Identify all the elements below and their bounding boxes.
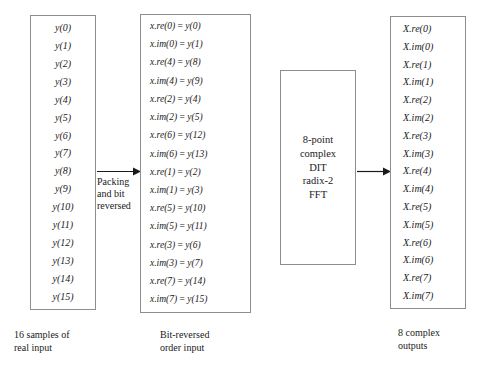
- packing-arrow-label: Packing and bit reversed: [97, 176, 143, 213]
- signal-entry: y(1): [55, 41, 71, 51]
- signal-entry: y(0): [55, 23, 71, 33]
- signal-entry: X.re(1): [391, 60, 431, 70]
- outputs-caption: 8 complex outputs: [398, 327, 488, 352]
- signal-entry: y(6): [55, 131, 71, 141]
- signal-entry: X.re(0): [391, 24, 431, 34]
- input-caption: 16 samples of real input: [14, 329, 124, 354]
- signal-entry: x.re(3) = y(6): [141, 241, 201, 251]
- signal-entry: x.im(4) = y(9): [141, 77, 203, 87]
- signal-entry: x.im(0) = y(1): [141, 40, 203, 50]
- signal-entry: x.im(1) = y(3): [141, 186, 203, 196]
- signal-entry: x.im(2) = y(5): [141, 113, 203, 123]
- signal-entry: X.im(7): [391, 291, 433, 301]
- signal-entry: x.re(7) = y(14): [141, 277, 205, 287]
- signal-entry: y(2): [55, 59, 71, 69]
- bit-reversed-input-box: x.re(0) = y(0)x.im(0) = y(1)x.re(4) = y(…: [140, 14, 251, 313]
- complex-outputs-box: X.re(0)X.im(0)X.re(1)X.im(1)X.re(2)X.im(…: [390, 16, 466, 309]
- signal-entry: X.im(6): [391, 255, 433, 265]
- signal-entry: y(8): [55, 166, 71, 176]
- output-arrow: [357, 167, 391, 176]
- signal-entry: y(5): [55, 113, 71, 123]
- signal-entry: x.im(6) = y(13): [141, 150, 207, 160]
- signal-entry: y(3): [55, 77, 71, 87]
- signal-entry: x.re(2) = y(4): [141, 95, 201, 105]
- signal-entry: y(9): [55, 184, 71, 194]
- signal-entry: y(14): [52, 274, 73, 284]
- signal-entry: y(11): [53, 220, 73, 230]
- signal-entry: x.im(7) = y(15): [141, 295, 207, 305]
- fft-block-line: FFT: [309, 188, 327, 202]
- signal-entry: y(12): [52, 238, 73, 248]
- signal-entry: X.im(5): [391, 220, 433, 230]
- input-samples-box: y(0)y(1)y(2)y(3)y(4)y(5)y(6)y(7)y(8)y(9)…: [30, 15, 96, 310]
- signal-entry: x.re(4) = y(8): [141, 58, 201, 68]
- packing-arrow: [97, 167, 141, 176]
- signal-entry: x.re(1) = y(2): [141, 168, 201, 178]
- bit-reversed-caption: Bit-reversed order input: [160, 329, 270, 354]
- signal-entry: X.re(5): [391, 202, 431, 212]
- fft-block-line: radix-2: [303, 174, 333, 188]
- signal-entry: y(4): [55, 95, 71, 105]
- signal-entry: X.im(0): [391, 42, 433, 52]
- signal-entry: X.im(4): [391, 184, 433, 194]
- signal-entry: x.im(5) = y(11): [141, 222, 207, 232]
- signal-entry: X.re(7): [391, 273, 431, 283]
- fft-processing-block: 8-pointcomplexDITradix-2FFT: [280, 70, 356, 265]
- signal-entry: y(13): [52, 256, 73, 266]
- signal-entry: y(10): [52, 202, 73, 212]
- signal-entry: y(15): [52, 292, 73, 302]
- signal-entry: x.re(0) = y(0): [141, 22, 201, 32]
- signal-entry: y(7): [55, 148, 71, 158]
- signal-entry: X.re(4): [391, 166, 431, 176]
- fft-block-line: 8-point: [303, 133, 333, 147]
- signal-entry: X.im(2): [391, 113, 433, 123]
- signal-entry: X.re(3): [391, 131, 431, 141]
- signal-entry: x.re(5) = y(10): [141, 204, 205, 214]
- signal-entry: X.im(1): [391, 77, 433, 87]
- signal-entry: x.im(3) = y(7): [141, 259, 203, 269]
- signal-entry: X.im(3): [391, 149, 433, 159]
- signal-entry: X.re(6): [391, 238, 431, 248]
- fft-dataflow-diagram: y(0)y(1)y(2)y(3)y(4)y(5)y(6)y(7)y(8)y(9)…: [0, 0, 490, 366]
- fft-block-line: complex: [300, 147, 336, 161]
- fft-block-line: DIT: [309, 161, 327, 175]
- signal-entry: X.re(2): [391, 95, 431, 105]
- signal-entry: x.re(6) = y(12): [141, 131, 205, 141]
